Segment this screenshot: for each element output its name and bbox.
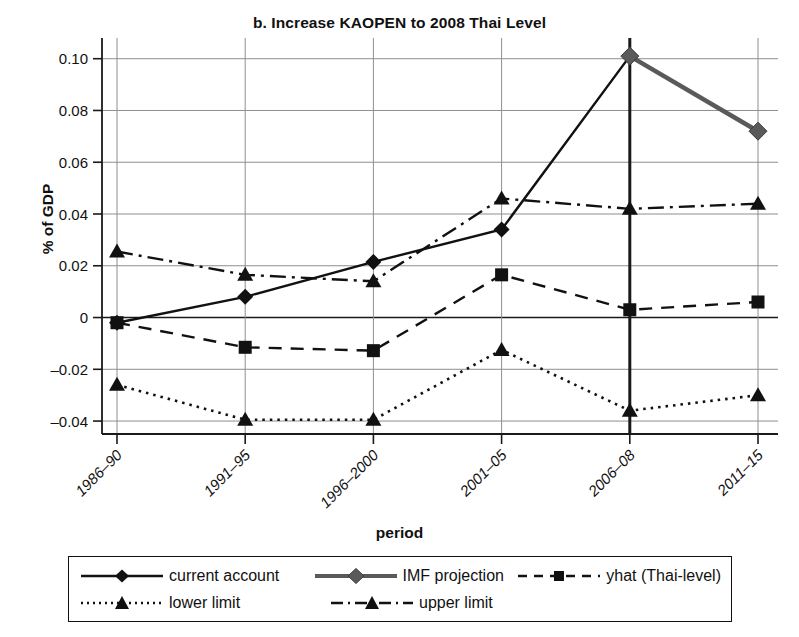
y-tick-label: 0.04 bbox=[59, 206, 88, 223]
triangle-marker-icon bbox=[79, 593, 165, 613]
x-tick-label: 2006–08 bbox=[584, 446, 638, 500]
y-tick-label: 0.02 bbox=[59, 257, 88, 274]
x-tick-label: 2011–15 bbox=[713, 446, 767, 500]
data-point-marker bbox=[750, 196, 766, 210]
data-point-marker bbox=[237, 289, 253, 305]
legend-label: current account bbox=[165, 567, 279, 585]
series-line bbox=[630, 56, 758, 131]
data-point-marker bbox=[752, 296, 765, 309]
plot-area: 0.100.080.060.040.020–0.02–0.04 1986–901… bbox=[0, 0, 799, 550]
x-axis-tick-labels: 1986–901991–951996–20002001–052006–08201… bbox=[72, 446, 767, 512]
y-axis-tick-labels: 0.100.080.060.040.020–0.02–0.04 bbox=[50, 50, 88, 429]
chart-figure: b. Increase KAOPEN to 2008 Thai Level % … bbox=[0, 0, 799, 637]
diamond-marker-icon bbox=[313, 566, 399, 586]
legend-item-yhat: yhat (Thai-level) bbox=[516, 562, 721, 589]
legend-item-current-account: current account bbox=[79, 562, 313, 589]
axis-frame bbox=[102, 38, 778, 434]
x-tick-label: 1991–95 bbox=[200, 446, 254, 500]
legend-label: yhat (Thai-level) bbox=[602, 567, 721, 585]
y-tick-label: 0 bbox=[80, 309, 88, 326]
x-tick-label: 2001–05 bbox=[456, 446, 510, 500]
x-axis-ticks bbox=[117, 434, 758, 444]
y-axis-ticks bbox=[93, 59, 102, 421]
data-point-marker bbox=[623, 303, 636, 316]
square-marker-icon bbox=[516, 566, 602, 586]
y-tick-label: 0.10 bbox=[59, 50, 88, 67]
data-point-marker bbox=[109, 244, 125, 258]
data-point-marker bbox=[750, 387, 766, 401]
data-point-marker bbox=[622, 403, 638, 417]
y-tick-label: –0.04 bbox=[50, 413, 88, 430]
data-point-marker bbox=[495, 268, 508, 281]
legend-label: lower limit bbox=[165, 594, 240, 612]
x-tick-label: 1996–2000 bbox=[316, 446, 382, 512]
data-point-marker bbox=[239, 341, 252, 354]
legend-label: IMF projection bbox=[399, 567, 504, 585]
data-point-marker bbox=[111, 316, 124, 329]
triangle-marker-icon bbox=[329, 593, 415, 613]
x-tick-label: 1986–90 bbox=[72, 446, 126, 500]
y-tick-label: –0.02 bbox=[50, 361, 88, 378]
data-point-marker bbox=[365, 254, 381, 270]
data-point-marker bbox=[494, 190, 510, 204]
legend-label: upper limit bbox=[415, 594, 493, 612]
chart-legend: current account IMF projection yhat (Tha… bbox=[68, 556, 732, 622]
diamond-marker-icon bbox=[79, 566, 165, 586]
data-point-marker bbox=[237, 412, 253, 426]
y-tick-label: 0.06 bbox=[59, 154, 88, 171]
legend-row-1: current account IMF projection yhat (Tha… bbox=[79, 562, 721, 589]
legend-item-imf-projection: IMF projection bbox=[313, 562, 517, 589]
series-line bbox=[117, 275, 758, 351]
legend-row-2: lower limit upper limit bbox=[79, 589, 721, 616]
data-point-marker bbox=[109, 377, 125, 391]
y-tick-label: 0.08 bbox=[59, 102, 88, 119]
data-point-marker bbox=[367, 344, 380, 357]
legend-item-lower-limit: lower limit bbox=[79, 589, 329, 616]
legend-item-upper-limit: upper limit bbox=[329, 589, 547, 616]
category-gridlines bbox=[117, 38, 758, 434]
series-line bbox=[117, 198, 758, 281]
series-line bbox=[117, 350, 758, 420]
gridlines bbox=[102, 59, 778, 421]
data-point-marker bbox=[494, 342, 510, 356]
